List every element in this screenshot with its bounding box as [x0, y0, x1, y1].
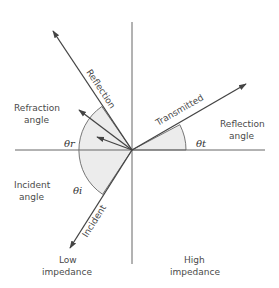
- low-impedance-label-2: impedance: [42, 267, 92, 277]
- reflection-angle-label-2: angle: [229, 131, 254, 141]
- incident-angle-label-1: Incident: [14, 180, 51, 190]
- refraction-angle-label-1: Refraction: [14, 103, 60, 113]
- refraction-angle-label-2: angle: [24, 115, 49, 125]
- reflection-angle-label-1: Reflection: [220, 119, 265, 129]
- theta-t-symbol: θt: [196, 138, 207, 149]
- theta-r-symbol: θr: [64, 138, 76, 149]
- theta-i-symbol: θi: [73, 185, 82, 196]
- right-angle-sector: [132, 125, 186, 150]
- incident-angle-label-2: angle: [19, 192, 44, 202]
- high-impedance-label-2: impedance: [170, 267, 220, 277]
- low-impedance-label-1: Low: [59, 255, 77, 265]
- impedance-boundary-diagram: Reflection Transmitted Incident θr θi θt…: [0, 0, 279, 288]
- high-impedance-label-1: High: [184, 255, 205, 265]
- incident-ray-label: Incident: [80, 203, 108, 239]
